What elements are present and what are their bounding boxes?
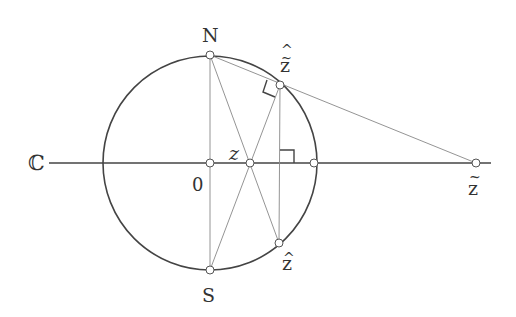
line-n-to-z-tilde bbox=[210, 55, 476, 163]
right-angle-mark-axis bbox=[280, 150, 294, 163]
line-s-to-z-tilde-hat bbox=[210, 85, 280, 270]
north-label: N bbox=[202, 24, 219, 46]
right-angle-mark-upper bbox=[263, 80, 275, 97]
line-n-to-z-hat bbox=[210, 55, 279, 243]
z-label: z bbox=[228, 142, 240, 164]
line-z-tilde-hat-to-z-hat bbox=[279, 85, 280, 243]
stereographic-projection-diagram: ℂ N S 0 z ~ z ^ z ^ ~ z bbox=[0, 0, 516, 317]
point-z bbox=[246, 159, 254, 167]
south-label: S bbox=[202, 284, 215, 306]
point-z-tilde bbox=[472, 159, 480, 167]
point-origin bbox=[206, 159, 214, 167]
point-z-hat bbox=[275, 239, 283, 247]
z-tilde-hat-label: z bbox=[280, 54, 290, 76]
z-tilde-label: z bbox=[468, 177, 478, 199]
point-north bbox=[206, 51, 214, 59]
plane-label: ℂ bbox=[28, 151, 45, 175]
point-south bbox=[206, 266, 214, 274]
point-z-tilde-hat bbox=[276, 81, 284, 89]
origin-label: 0 bbox=[192, 174, 203, 195]
z-hat-label: z bbox=[282, 252, 292, 274]
point-unit bbox=[310, 159, 318, 167]
